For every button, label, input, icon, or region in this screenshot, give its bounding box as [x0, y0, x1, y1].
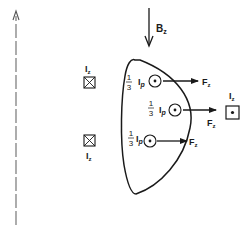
magnetic-field-arrow: Bz	[145, 8, 167, 46]
fraction-numerator: 1	[127, 73, 132, 82]
symmetry-axis	[13, 11, 19, 225]
field-label: Bz	[156, 23, 167, 35]
fraction-denominator: 3	[149, 109, 154, 118]
force-label: Fz	[202, 77, 211, 88]
current-label: Ip	[136, 134, 144, 146]
coil-left-upper: Iz	[84, 64, 95, 88]
current-label: Ip	[138, 77, 146, 89]
coil-right: Iz	[226, 91, 239, 119]
fraction-numerator: 1	[149, 99, 154, 108]
current-label: Ip	[159, 105, 167, 117]
coil-label: Iz	[85, 64, 91, 75]
fraction-denominator: 3	[129, 139, 134, 148]
fraction-numerator: 1	[129, 129, 134, 138]
plasma-diagram: Bz Iz Iz Iz 1 3 Ip Fz 1 3 Ip	[0, 0, 251, 230]
force-label: Fz	[207, 118, 216, 129]
coil-label: Iz	[229, 91, 235, 102]
coil-left-lower: Iz	[84, 135, 95, 162]
coil-label: Iz	[86, 151, 92, 162]
plasma-boundary	[121, 60, 191, 194]
plasma-filament-2: 1 3 Ip Fz	[148, 99, 216, 129]
fraction-denominator: 3	[127, 83, 132, 92]
force-label: Fz	[189, 137, 198, 148]
